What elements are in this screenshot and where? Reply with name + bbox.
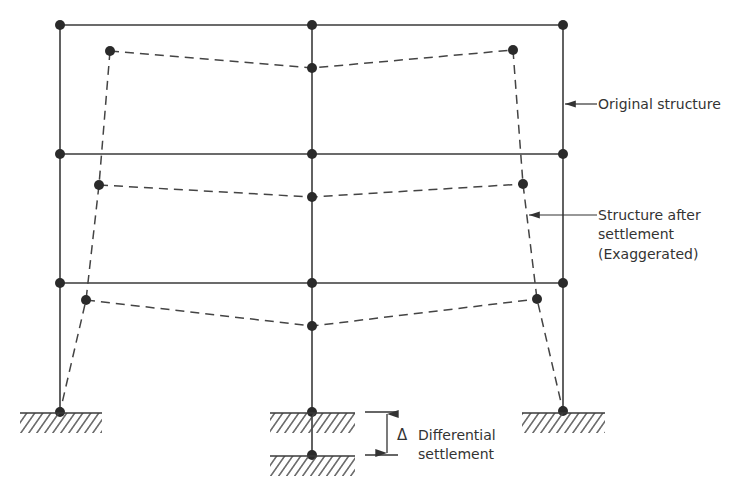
label-structure-after-3: (Exaggerated) [598,246,698,262]
node [307,20,317,30]
node [558,20,568,30]
dimension-differential [365,412,398,455]
settled-column-left [60,51,110,412]
node [307,149,317,159]
label-structure-after-2: settlement [598,226,675,242]
node [558,149,568,159]
settled-column-right [513,50,563,411]
settled-node [105,46,115,56]
node [55,278,65,288]
ground-hatch-middle-settled [270,456,355,476]
ground-hatch-left [20,413,102,433]
settled-node [307,192,317,202]
settled-node [94,180,104,190]
delta-symbol: Δ [397,426,408,444]
settled-node [532,294,542,304]
structural-diagram: Original structure Structure after settl… [0,0,749,495]
settled-node [307,63,317,73]
node [558,278,568,288]
settled-node [508,45,518,55]
settled-node [307,321,317,331]
label-differential: Differential [418,427,496,443]
ground-hatch-right [522,413,605,433]
settled-node [518,179,528,189]
node [307,278,317,288]
node [55,149,65,159]
settled-node [81,295,91,305]
label-settlement: settlement [418,446,495,462]
node [55,20,65,30]
original-structure [60,25,563,455]
label-original-structure: Original structure [598,96,721,112]
ground-hatch-middle-original [270,413,355,433]
label-structure-after-1: Structure after [598,207,701,223]
